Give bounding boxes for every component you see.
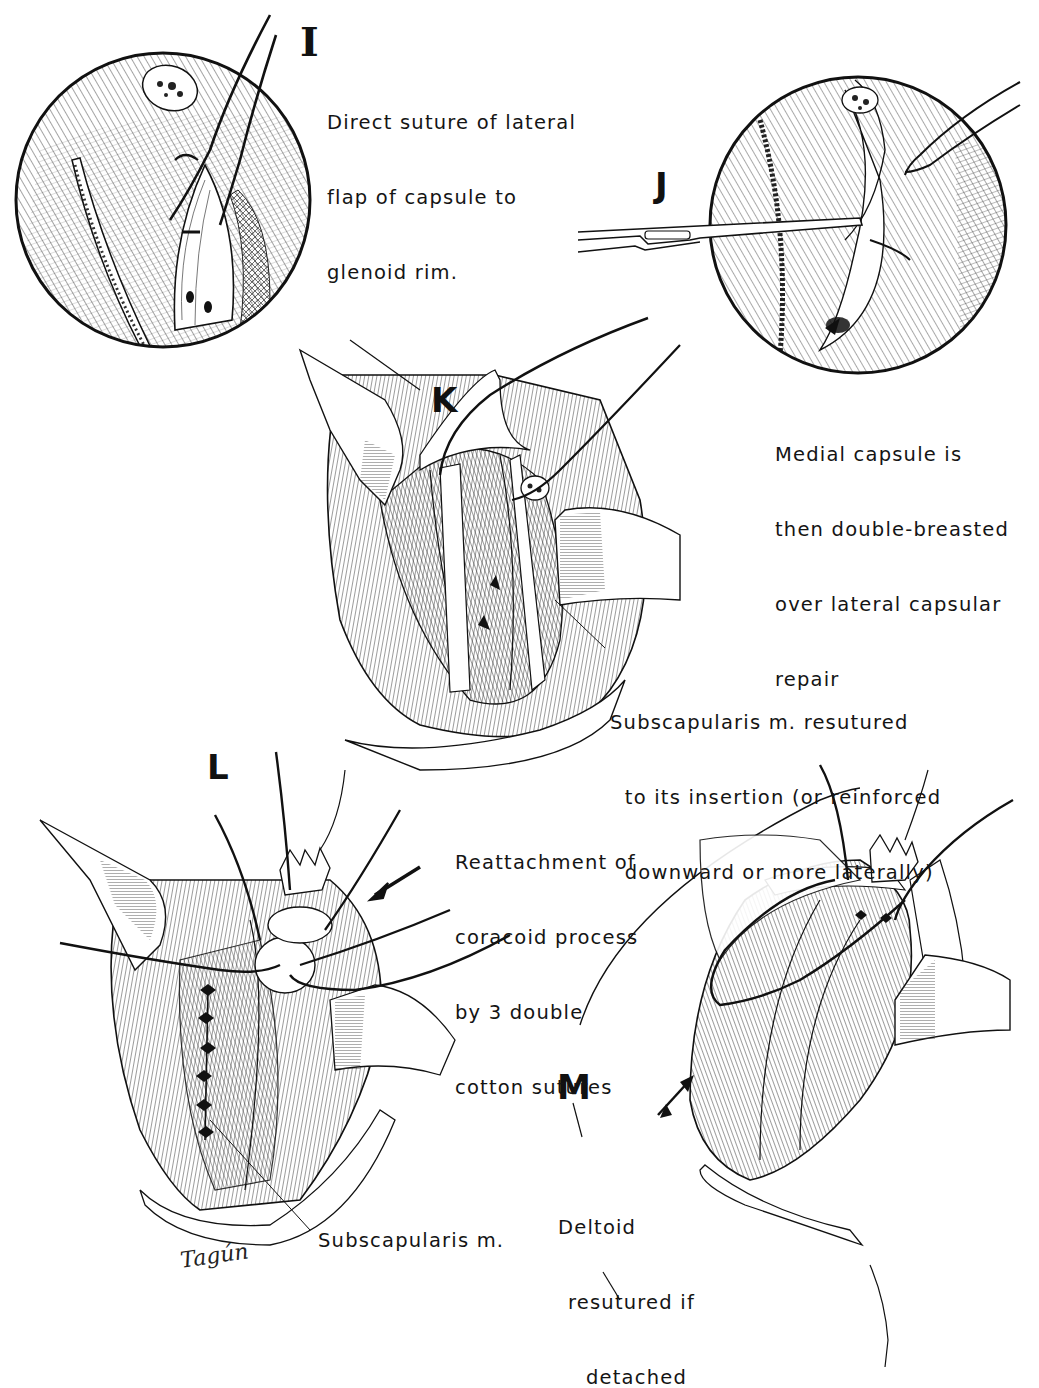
label-subscapularis: Subscapularis m. xyxy=(318,1228,504,1253)
caption-line: by 3 double xyxy=(455,1000,638,1025)
caption-line: then double-breasted xyxy=(775,517,1009,542)
panel-label-k: K xyxy=(431,383,457,417)
panel-i-drawing xyxy=(10,15,320,360)
caption-line: glenoid rim. xyxy=(327,260,576,285)
caption-panel-l: Reattachment of coracoid process by 3 do… xyxy=(455,800,638,1150)
caption-line: Subscapularis m. resutured xyxy=(610,710,941,735)
panel-label-l: L xyxy=(207,750,229,784)
caption-line: Reattachment of xyxy=(455,850,638,875)
caption-line: flap of capsule to xyxy=(327,185,576,210)
caption-line: coracoid process xyxy=(455,925,638,950)
panel-j-drawing xyxy=(578,75,1020,385)
caption-panel-m: Deltoid resutured if detached xyxy=(558,1165,695,1388)
panel-l-drawing xyxy=(40,752,510,1245)
caption-line: cotton sutures xyxy=(455,1075,638,1100)
caption-line: downward or more laterally) xyxy=(610,860,941,885)
caption-line: Direct suture of lateral xyxy=(327,110,576,135)
caption-line: resutured if xyxy=(558,1290,695,1315)
panel-label-j: J xyxy=(655,168,668,202)
caption-line: Medial capsule is xyxy=(775,442,1009,467)
panel-label-i: I xyxy=(300,22,319,62)
caption-line: to its insertion (or reinforced xyxy=(610,785,941,810)
caption-line: detached xyxy=(558,1365,695,1388)
caption-line: over lateral capsular xyxy=(775,592,1009,617)
caption-line: Deltoid xyxy=(558,1215,695,1240)
caption-panel-k: Subscapularis m. resutured to its insert… xyxy=(610,660,941,935)
caption-panel-i: Direct suture of lateral flap of capsule… xyxy=(327,60,576,335)
